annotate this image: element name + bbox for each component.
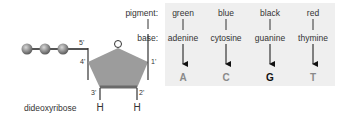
letter-a: A: [179, 72, 186, 83]
position-4prime: 4': [80, 58, 85, 65]
pigment-blue: blue: [218, 8, 234, 18]
hydrogen-3prime: H: [96, 102, 103, 113]
phosphate-chain: [22, 44, 89, 81]
ring-oxygen-icon: [115, 41, 122, 48]
pigment-label: pigment:: [125, 8, 158, 18]
sugar-label: dideoxyribose: [24, 103, 77, 113]
letter-t: T: [310, 72, 316, 83]
letter-c: C: [222, 72, 229, 83]
dideoxynucleotide-diagram: 5' 4' 1' 3' 2' H H dideoxyribose pigment…: [0, 0, 349, 120]
letter-g: G: [266, 72, 274, 83]
pigment-black: black: [260, 8, 281, 18]
base-guanine: guanine: [255, 33, 286, 43]
position-3prime: 3': [91, 89, 96, 96]
phosphate-ball-1: [22, 44, 33, 55]
position-2prime: 2': [139, 89, 144, 96]
position-5prime: 5': [79, 39, 84, 46]
pigment-red: red: [307, 8, 320, 18]
phosphate-ball-3: [58, 44, 69, 55]
base-label: base:: [137, 33, 158, 43]
base-thymine: thymine: [298, 33, 328, 43]
hydrogen-2prime: H: [133, 102, 140, 113]
base-adenine: adenine: [168, 33, 199, 43]
pigment-green: green: [172, 8, 194, 18]
position-1prime: 1': [151, 58, 156, 65]
base-cytosine: cytosine: [210, 33, 241, 43]
phosphate-ball-2: [40, 44, 51, 55]
